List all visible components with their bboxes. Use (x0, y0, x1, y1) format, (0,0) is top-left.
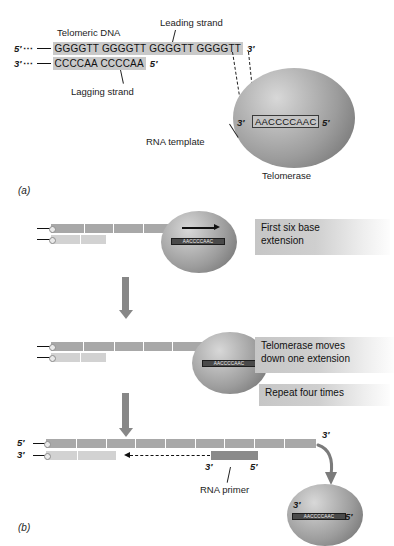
step1-top-strand (51, 224, 173, 233)
bottom-strand-row: 3′ ⋯ CCCCAA CCCCAA 5′ (14, 57, 157, 70)
final-top-five-prime: 5′ (17, 437, 25, 448)
final-primer-five-prime: 5′ (250, 461, 258, 472)
lagging-strand-label: Lagging strand (71, 86, 134, 97)
step-arrow-2 (122, 393, 129, 439)
final-bottom-three-prime: 3′ (17, 449, 25, 460)
step-1-row: AACCCCAAC First six base extension (0, 205, 385, 285)
top-strand-sequence: GGGGTT GGGGTT GGGGTT GGGGTT (53, 42, 244, 55)
step1-rna-template-box: AACCCCAAC (171, 238, 225, 245)
lagging-strand-leader-line (120, 70, 124, 84)
rna-template-box: AACCCCAAC (252, 115, 319, 128)
step1-bottom-strand (51, 235, 106, 244)
final-rna-primer-label: RNA primer (200, 484, 249, 495)
final-rna-three-prime: 3′ (293, 499, 301, 510)
telomerase-label: Telomerase (262, 170, 311, 181)
final-bottom-strand-end-nub (44, 453, 51, 460)
final-synthesis-arrow (124, 452, 210, 459)
step2-top-strand (51, 342, 203, 351)
step1-bottom-strand-end-nub (49, 237, 56, 244)
step1-top-strand-end-nub (49, 226, 56, 233)
step2-callout-label: Telomerase moves down one extension (255, 337, 394, 373)
top-strand-row: 5′ ⋯ GGGGTT GGGGTT GGGGTT GGGGTT 3′ (14, 42, 255, 55)
recycle-curved-arrow (312, 443, 344, 489)
panel-a-identifier: (a) (18, 185, 30, 196)
step3-callout-label: Repeat four times (259, 384, 390, 406)
step2-top-strand-end-nub (49, 344, 56, 351)
final-state-row: 5′ 3′ (0, 441, 385, 531)
final-rna-template-box: AACCCCAAC (292, 513, 346, 520)
top-strand-five-prime: 5′ (14, 43, 22, 54)
final-bottom-strand (46, 451, 116, 460)
leading-strand-label: Leading strand (160, 17, 223, 28)
step2-bottom-strand (51, 353, 106, 362)
rna-template-label: RNA template (146, 136, 205, 147)
final-rna-primer-block (211, 451, 258, 460)
rna-template-three-prime: 3′ (237, 117, 245, 128)
bottom-strand-ellipsis: ⋯ (23, 58, 34, 69)
bottom-strand-sequence: CCCCAA CCCCAA (53, 57, 146, 70)
final-top-strand (46, 439, 316, 448)
final-primer-three-prime: 3′ (205, 461, 213, 472)
telomeric-dna-label: Telomeric DNA (57, 27, 120, 38)
panel-b-identifier: (b) (18, 522, 30, 533)
bottom-strand-three-prime: 3′ (14, 58, 22, 69)
final-top-end-three-prime: 3′ (322, 429, 330, 440)
rna-primer-leader-line (227, 467, 231, 483)
step1-callout-label: First six base extension (255, 219, 390, 255)
top-strand-ellipsis: ⋯ (23, 43, 34, 54)
bottom-strand-dash (37, 63, 51, 64)
final-top-strand-end-nub (44, 441, 51, 448)
panel-a: Telomeric DNA Leading strand 5′ ⋯ GGGGTT… (0, 0, 385, 185)
rna-template-five-prime: 5′ (322, 117, 330, 128)
step1-extension-arrow (182, 224, 220, 231)
step2-bottom-strand-end-nub (49, 355, 56, 362)
final-rna-five-prime: 5′ (345, 511, 353, 522)
top-strand-dash (37, 48, 51, 49)
step-arrow-1 (122, 277, 129, 321)
bottom-strand-five-prime: 5′ (150, 58, 158, 69)
panel-b: AACCCCAAC First six base extension (0, 205, 385, 525)
leading-strand-leader-line (172, 30, 176, 43)
step2-rna-template-box: AACCCCAAC (202, 360, 256, 367)
